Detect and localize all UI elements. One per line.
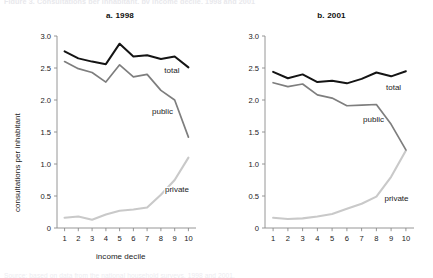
- y-tick-label: 0.5: [40, 192, 51, 201]
- series-line-private: [273, 151, 406, 219]
- x-tick-label: 6: [131, 234, 135, 243]
- x-tick-label: 6: [345, 234, 349, 243]
- y-tick-label: 1.5: [40, 128, 51, 137]
- x-tick-label: 7: [145, 234, 149, 243]
- series-label-private: private: [165, 185, 190, 194]
- x-tick-label: 7: [359, 234, 363, 243]
- x-tick-label: 4: [104, 234, 108, 243]
- x-tick-label: 9: [389, 234, 393, 243]
- series-label-private: private: [385, 194, 410, 203]
- axis-spines: [57, 36, 196, 228]
- x-tick-label: 4: [315, 234, 319, 243]
- x-tick-label: 1: [62, 234, 66, 243]
- series-line-public: [273, 83, 406, 150]
- y-tick-label: 2.0: [248, 96, 259, 105]
- x-tick-label: 10: [184, 234, 192, 243]
- plot-canvas: 00.51.01.52.02.53.012345678910totaltotal…: [0, 0, 433, 278]
- y-tick-label: 1.5: [248, 128, 259, 137]
- y-tick-label: 1.0: [40, 160, 51, 169]
- x-tick-label: 5: [117, 234, 121, 243]
- series-label-total: total: [164, 66, 179, 75]
- x-tick-label: 8: [159, 234, 163, 243]
- plot-area-1998: 00.51.01.52.02.53.012345678910totaltotal…: [40, 32, 196, 243]
- y-tick-label: 2.5: [248, 64, 259, 73]
- y-tick-label: 0.5: [248, 192, 259, 201]
- series-label-public: public: [363, 115, 384, 124]
- y-tick-label: 2.5: [40, 64, 51, 73]
- y-tick-label: 3.0: [40, 32, 51, 41]
- y-tick-label: 3.0: [248, 32, 259, 41]
- y-tick-label: 0: [47, 224, 51, 233]
- series-line-total: [273, 71, 406, 83]
- y-tick-label: 0: [255, 224, 259, 233]
- plot-area-2001: 00.51.01.52.02.53.012345678910totaltotal…: [248, 32, 414, 243]
- x-tick-label: 2: [76, 234, 80, 243]
- x-tick-label: 9: [173, 234, 177, 243]
- y-tick-label: 2.0: [40, 96, 51, 105]
- x-tick-label: 10: [402, 234, 410, 243]
- series-label-public: public: [152, 107, 173, 116]
- x-tick-label: 2: [286, 234, 290, 243]
- x-tick-label: 3: [300, 234, 304, 243]
- x-tick-label: 5: [330, 234, 334, 243]
- x-tick-label: 8: [374, 234, 378, 243]
- series-label-total: total: [386, 83, 401, 92]
- x-tick-label: 1: [271, 234, 275, 243]
- figure-consultations-by-income-decile: Figure 3. Consultations per inhabitant, …: [0, 0, 433, 278]
- figure-source-note-clipped: Source: based on data from the national …: [4, 272, 432, 278]
- y-tick-label: 1.0: [248, 160, 259, 169]
- x-tick-label: 3: [90, 234, 94, 243]
- series-line-total: [65, 44, 189, 68]
